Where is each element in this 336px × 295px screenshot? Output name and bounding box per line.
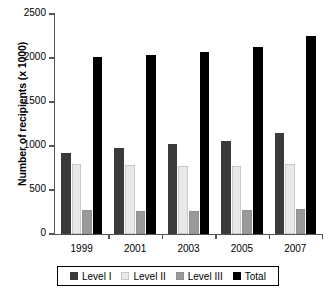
legend-entry[interactable]: Level I	[70, 271, 111, 282]
bar-group	[162, 14, 215, 234]
bar	[136, 211, 146, 234]
plot-area	[55, 14, 322, 234]
bar	[125, 165, 135, 234]
y-axis-tick-mark	[49, 13, 54, 14]
x-axis-tick-label: 1999	[58, 243, 106, 254]
legend-label: Level I	[82, 271, 111, 282]
x-axis-tick-mark	[269, 234, 270, 239]
y-axis-tick-label: 2000	[24, 51, 46, 62]
y-axis-tick-mark	[49, 57, 54, 58]
bar	[189, 211, 199, 234]
y-axis-tick-mark	[49, 189, 54, 190]
bar	[253, 47, 263, 234]
x-axis-tick-label: 2003	[165, 243, 213, 254]
x-axis-tick-label: 2007	[271, 243, 319, 254]
bar	[296, 209, 306, 234]
y-axis-title: Number of recipients (x 1000)	[16, 14, 28, 214]
bar	[285, 164, 295, 234]
bar	[275, 133, 285, 234]
y-axis-tick-label: 500	[29, 183, 46, 194]
legend-swatch-icon	[233, 272, 241, 280]
x-axis-tick-mark	[215, 234, 216, 239]
x-axis-tick-mark	[108, 234, 109, 239]
bar	[93, 57, 103, 234]
legend-swatch-icon	[176, 272, 184, 280]
x-axis-tick-label: 2001	[111, 243, 159, 254]
legend-entry[interactable]: Total	[233, 271, 266, 282]
legend-label: Level III	[188, 271, 223, 282]
y-axis-tick-label: 1500	[24, 95, 46, 106]
chart-legend: Level ILevel IILevel IIITotal	[57, 266, 279, 286]
y-axis-tick-label: 2500	[24, 7, 46, 18]
y-axis-tick-mark	[49, 145, 54, 146]
bar	[146, 55, 156, 234]
legend-entry[interactable]: Level II	[121, 271, 165, 282]
legend-label: Total	[245, 271, 266, 282]
bar-group	[215, 14, 268, 234]
y-axis-tick-mark	[49, 233, 54, 234]
bar	[178, 166, 188, 234]
bar-group	[108, 14, 161, 234]
x-axis-tick-label: 2005	[218, 243, 266, 254]
bar	[168, 144, 178, 234]
bar	[72, 164, 82, 234]
bar	[306, 36, 316, 234]
bar-group	[55, 14, 108, 234]
bar	[114, 148, 124, 234]
y-axis-tick-label: 1000	[24, 139, 46, 150]
bar	[242, 210, 252, 234]
legend-swatch-icon	[70, 272, 78, 280]
legend-entry[interactable]: Level III	[176, 271, 223, 282]
x-axis-tick-mark	[322, 234, 323, 239]
bar	[61, 153, 71, 234]
legend-swatch-icon	[121, 272, 129, 280]
y-axis-tick-mark	[49, 101, 54, 102]
bar	[232, 166, 242, 234]
legend-label: Level II	[133, 271, 165, 282]
bar	[200, 52, 210, 234]
bar	[221, 141, 231, 234]
bar	[82, 210, 92, 234]
bar-chart-figure: Number of recipients (x 1000) 0500100015…	[0, 0, 336, 295]
x-axis-tick-mark	[162, 234, 163, 239]
y-axis-tick-label: 0	[40, 227, 46, 238]
bar-group	[269, 14, 322, 234]
